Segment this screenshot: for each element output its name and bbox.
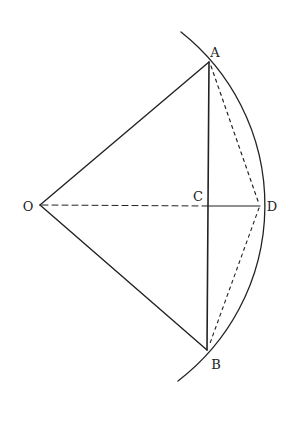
point-label-B: B [211, 358, 221, 371]
point-label-A: A [210, 46, 219, 59]
chord-AD-dotted [211, 66, 259, 204]
segment-OC-dashed [42, 205, 209, 206]
segment-OB [40, 205, 207, 350]
chord-DB-dotted [209, 208, 259, 346]
diagram-canvas [0, 0, 293, 422]
geometry-diagram: O A B C D [0, 0, 293, 422]
segment-OA [40, 62, 209, 205]
point-label-C: C [193, 190, 203, 203]
point-label-D: D [267, 200, 277, 213]
point-label-O: O [23, 200, 34, 213]
